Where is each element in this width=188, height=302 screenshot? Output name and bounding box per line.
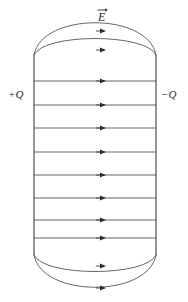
- positive-charge-label: +Q: [8, 89, 23, 100]
- vector-arrow-icon: [97, 7, 108, 12]
- electric-field-label: E: [98, 9, 105, 23]
- fringing-field-lines: [34, 23, 156, 288]
- field-line-fringe-bottom-inner: [34, 255, 156, 272]
- capacitor-plates: [34, 55, 156, 255]
- capacitor-field-diagram: E +Q −Q: [0, 0, 188, 302]
- field-line-fringe-top-inner: [34, 39, 156, 56]
- field-line-canvas: [0, 0, 188, 302]
- electric-field-symbol: E: [98, 10, 105, 24]
- field-direction-arrows: [96, 31, 103, 288]
- vector-symbol-wrap: E: [98, 9, 105, 23]
- straight-field-lines: [34, 81, 156, 238]
- negative-charge-label: −Q: [161, 89, 176, 100]
